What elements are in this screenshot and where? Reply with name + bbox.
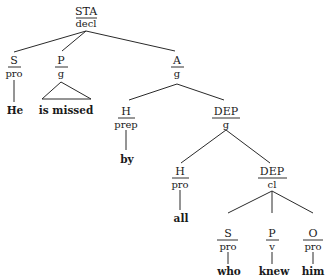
node-category: g [223, 119, 230, 130]
node-category: decl [75, 18, 96, 29]
node-function: S [10, 54, 18, 67]
edge-a-h [129, 84, 177, 100]
node-function: DEP [260, 165, 285, 178]
node-function: DEP [214, 105, 239, 118]
edge-sta-s [14, 31, 86, 52]
syntax-tree: STA decl S pro He P g is missed A g H pr… [0, 0, 327, 277]
leaf-word: knew [259, 265, 291, 277]
node-category: prep [114, 119, 138, 130]
edge-dep-dep [226, 130, 270, 163]
node-category: pro [219, 241, 236, 252]
node-dep-g: DEP g [212, 105, 240, 130]
node-a-adjunct: A g [171, 54, 184, 79]
node-function: STA [75, 5, 98, 18]
node-function: H [121, 105, 131, 118]
node-category: pro [171, 179, 188, 190]
leaf-word: by [120, 153, 134, 165]
edge-dep-h [181, 130, 226, 163]
node-category: pro [5, 68, 22, 79]
leaf-word: all [174, 212, 189, 224]
node-dep-cl: DEP cl [258, 165, 287, 190]
node-function: P [268, 227, 276, 240]
edge-a-dep [177, 84, 224, 100]
node-s-subject: S pro He [5, 54, 23, 116]
edge-cl-s [228, 191, 272, 213]
leaf-word: He [7, 104, 24, 116]
leaf-word: who [216, 265, 241, 277]
node-category: cl [268, 179, 277, 190]
node-category: v [268, 241, 275, 252]
node-function: S [224, 227, 232, 240]
leaf-word: is missed [39, 104, 94, 116]
node-category: pro [304, 241, 321, 252]
node-function: H [175, 165, 185, 178]
edge-sta-a [86, 31, 175, 51]
leaf-word: him [302, 265, 325, 277]
node-category: g [174, 68, 181, 79]
edge-cl-o [272, 191, 313, 213]
triangle-is-missed [42, 82, 91, 99]
node-function: P [57, 54, 65, 67]
node-sta: STA decl [75, 5, 98, 29]
node-function: A [172, 54, 182, 67]
node-p-knew: P v knew [259, 227, 291, 277]
node-function: O [308, 227, 317, 240]
node-category: g [58, 68, 65, 79]
